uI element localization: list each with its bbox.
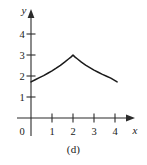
plot-area: 1 2 3 4 1 2 3 4 0 x y <box>0 0 147 165</box>
x-axis-arrow-icon <box>126 115 135 122</box>
y-axis-arrow-icon <box>28 9 35 18</box>
figure-panel: 1 2 3 4 1 2 3 4 0 x y (d) <box>0 0 147 165</box>
x-tick-label-2: 2 <box>70 126 75 137</box>
x-tick-label-3: 3 <box>91 126 96 137</box>
x-axis-label: x <box>132 124 138 136</box>
y-tick-label-2: 2 <box>19 71 24 82</box>
x-tick-label-1: 1 <box>49 126 54 137</box>
y-tick-label-4: 4 <box>19 29 25 40</box>
y-tick-label-3: 3 <box>19 50 24 61</box>
figure-caption: (d) <box>0 143 147 155</box>
origin-label: 0 <box>19 126 24 137</box>
data-curve <box>31 55 117 82</box>
y-axis-label: y <box>21 4 27 16</box>
y-tick-label-1: 1 <box>19 92 24 103</box>
x-tick-label-4: 4 <box>112 126 118 137</box>
